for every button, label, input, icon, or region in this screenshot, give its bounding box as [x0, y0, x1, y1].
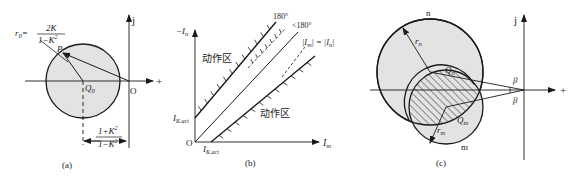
hatch-tick-lower: [235, 122, 239, 125]
radius-formula: r0= 2K 1−K2: [15, 23, 65, 45]
hatch-tick-lt180: [275, 34, 277, 38]
real-axis-label: +: [156, 75, 162, 87]
circle-m-label: m: [461, 142, 468, 152]
svg-text:1−K2: 1−K2: [38, 34, 58, 45]
angle-beta-upper: β: [512, 75, 518, 85]
hatch-tick-lower: [275, 89, 279, 92]
hatch-tick-lt180: [260, 49, 262, 53]
hatch-tick-lower: [307, 63, 311, 66]
real-axis-label: +: [560, 84, 566, 96]
x-intercept-label: IK.act: [202, 144, 219, 155]
equal-mag-dashed: [282, 47, 305, 77]
equal-magnitude-label: |Im| = |In|: [302, 37, 334, 48]
hatch-tick-lower: [251, 109, 255, 112]
panel-a: j + O r0= 2K 1−K2 P Q0 1+K2 1−K2 (a): [15, 14, 162, 170]
hatch-tick-lt180: [279, 29, 281, 33]
hatch-tick-lower: [267, 96, 271, 99]
boundary-hatch-marks: [198, 25, 311, 138]
hatch-tick-upper: [205, 99, 208, 103]
svg-text:1+K2: 1+K2: [98, 125, 118, 136]
svg-text:r0=: r0=: [15, 28, 28, 39]
hatch-tick-upper: [230, 69, 233, 73]
svg-text:2K: 2K: [46, 23, 58, 33]
point-p-label: P: [56, 44, 63, 54]
hatch-tick-lt180: [251, 59, 253, 63]
boundary-180-upper: [195, 22, 276, 118]
hatch-tick-lt180: [265, 44, 267, 48]
operating-zone-upper: 动作区: [202, 53, 232, 64]
imag-axis-label: j: [131, 14, 135, 26]
hatch-tick-upper: [223, 77, 226, 81]
figure-canvas: j + O r0= 2K 1−K2 P Q0 1+K2 1−K2 (a): [0, 0, 579, 181]
caption-c: (c): [436, 158, 446, 168]
caption-b: (b): [245, 158, 256, 168]
hatch-tick-lower: [283, 82, 287, 85]
angle-beta-lower: β: [512, 95, 518, 105]
hatch-tick-lower: [243, 116, 247, 119]
hatch-tick-upper: [254, 40, 257, 44]
distance-formula: 1+K2 1−K2: [96, 125, 122, 149]
hatch-tick-lower: [227, 129, 231, 132]
origin-label: O: [130, 86, 137, 96]
hatch-tick-lt180: [270, 39, 272, 43]
hatch-tick-lt180: [256, 54, 258, 58]
hatch-tick-lower: [291, 76, 295, 79]
hatch-tick-upper: [236, 62, 239, 66]
hatch-tick-upper: [217, 84, 220, 88]
circle-n-label: n: [426, 8, 431, 18]
caption-a: (a): [62, 160, 72, 170]
imag-axis-label: j: [513, 14, 517, 26]
hatch-tick-upper: [267, 25, 270, 29]
operating-zone-lower: 动作区: [260, 108, 290, 119]
origin-label: O: [186, 138, 193, 148]
angle-lt180-label: <180°: [292, 21, 312, 30]
svg-text:1−K2: 1−K2: [98, 138, 118, 149]
hatch-tick-upper: [211, 91, 214, 95]
y-intercept-label: IK.act: [172, 113, 189, 124]
hatch-tick-upper: [198, 106, 201, 110]
angle-180-label: 180°: [273, 12, 288, 21]
hatch-tick-upper: [261, 32, 264, 36]
equal-magnitude-line: [195, 32, 298, 142]
panel-c: j + n m rn rm Qn Qm β β (c): [370, 8, 566, 168]
hatch-tick-upper: [248, 47, 251, 51]
hatch-tick-upper: [242, 55, 245, 59]
hatch-tick-lower: [259, 102, 263, 105]
x-axis-label: Im: [322, 137, 331, 149]
panel-b: −In Im O IK.act IK.act 180° <180° |Im| =…: [172, 12, 334, 168]
hatch-tick-lower: [219, 135, 223, 138]
hatch-tick-lower: [299, 69, 303, 72]
y-axis-label: −In: [176, 26, 188, 37]
